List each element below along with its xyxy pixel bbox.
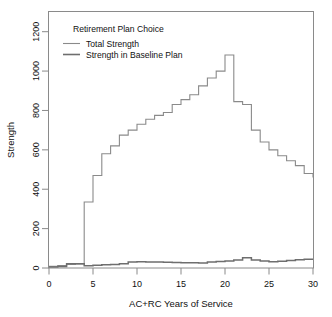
chart-legend: Retirement Plan Choice Total Strength St… (63, 24, 183, 60)
x-tick-label: 20 (220, 279, 230, 289)
y-tick-label: 1000 (31, 61, 41, 81)
x-axis-ticks: 051015202530 (46, 268, 318, 289)
y-tick-label: 800 (31, 103, 41, 118)
y-tick-label: 200 (31, 221, 41, 236)
y-axis-ticks: 020040060080010001200 (31, 22, 49, 271)
x-tick-label: 0 (46, 279, 51, 289)
chart-figure: 020040060080010001200 051015202530 Stren… (0, 0, 332, 317)
x-axis-title: AC+RC Years of Service (129, 298, 233, 309)
x-tick-label: 15 (176, 279, 186, 289)
y-tick-label: 0 (31, 265, 41, 270)
y-axis-title: Strength (5, 122, 16, 158)
chart-canvas: 020040060080010001200 051015202530 Stren… (0, 0, 332, 317)
series-line (49, 258, 313, 267)
y-tick-label: 600 (31, 142, 41, 157)
x-tick-label: 5 (90, 279, 95, 289)
x-tick-label: 10 (132, 279, 142, 289)
legend-label-total-strength: Total Strength (86, 39, 139, 49)
data-series-group (49, 55, 313, 267)
legend-title: Retirement Plan Choice (73, 24, 164, 34)
series-line (49, 55, 313, 266)
x-tick-label: 30 (308, 279, 318, 289)
y-tick-label: 400 (31, 182, 41, 197)
legend-label-baseline-plan: Strength in Baseline Plan (86, 50, 183, 60)
y-tick-label: 1200 (31, 22, 41, 42)
x-tick-label: 25 (264, 279, 274, 289)
